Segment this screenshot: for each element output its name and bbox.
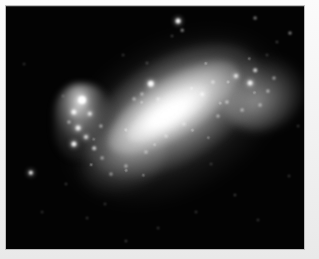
sky-image-plate — [6, 6, 304, 249]
field-star-5 — [276, 41, 278, 43]
field-star-2 — [171, 35, 173, 37]
field-star-21 — [23, 63, 25, 65]
field-star-14 — [125, 240, 127, 242]
field-star-6 — [266, 54, 268, 56]
field-star-18 — [257, 219, 259, 221]
field-star-11 — [65, 183, 67, 185]
field-star-layer — [6, 6, 304, 249]
field-star-0 — [176, 19, 181, 24]
field-star-15 — [157, 227, 159, 229]
field-star-8 — [122, 54, 124, 56]
field-star-4 — [289, 32, 292, 35]
field-star-23 — [210, 163, 212, 165]
field-star-9 — [62, 95, 64, 97]
field-star-13 — [86, 217, 88, 219]
field-star-12 — [104, 203, 106, 205]
field-star-10 — [29, 171, 33, 175]
field-star-19 — [288, 175, 290, 177]
field-star-20 — [297, 125, 299, 127]
figure-caption — [6, 253, 304, 258]
field-star-22 — [41, 211, 43, 213]
field-star-1 — [181, 29, 184, 32]
field-star-17 — [234, 194, 236, 196]
field-star-16 — [195, 211, 197, 213]
field-star-3 — [254, 17, 257, 20]
field-star-7 — [146, 62, 148, 64]
figure-astronomical-plate — [0, 0, 319, 259]
